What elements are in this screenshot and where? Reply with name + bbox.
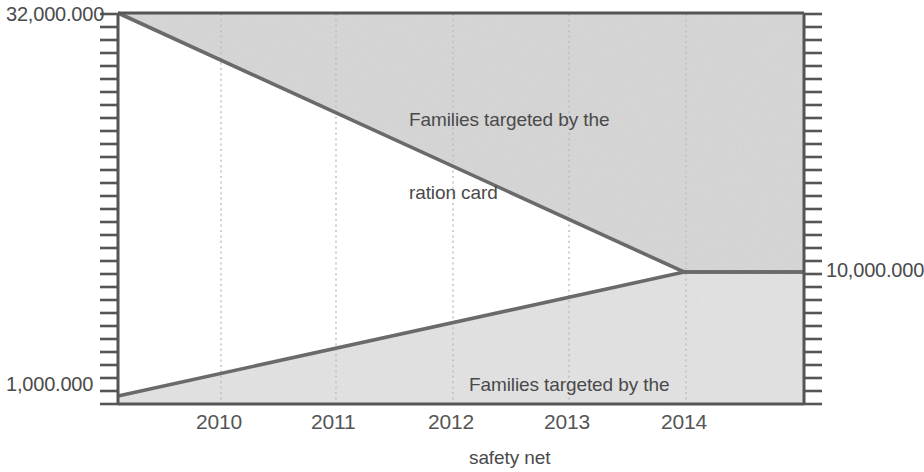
series-annotation-safety-net-line1: Families targeted by the: [469, 373, 669, 397]
series-annotation-safety-net: Families targeted by the safety net: [469, 324, 669, 472]
y-axis-label-top-left: 32,000.000: [6, 2, 104, 28]
series-annotation-ration-card-line2: ration card: [409, 181, 609, 205]
y-axis-label-right: 10,000.000: [826, 258, 924, 284]
x-axis-tick-label-2010: 2010: [196, 409, 242, 436]
x-axis-tick-label-2013: 2013: [544, 409, 590, 436]
axis-ticks-right: [804, 14, 822, 404]
x-axis-tick-label-2011: 2011: [311, 409, 355, 436]
axis-ticks-left: [100, 14, 118, 404]
series-annotation-ration-card-line1: Families targeted by the: [409, 108, 609, 132]
y-axis-label-bottom-left: 1,000.000: [6, 372, 93, 398]
series-annotation-safety-net-line2: safety net: [469, 446, 669, 470]
x-axis-tick-label-2014: 2014: [661, 409, 707, 436]
series-annotation-ration-card: Families targeted by the ration card: [409, 59, 609, 254]
x-axis-tick-label-2012: 2012: [428, 409, 474, 436]
